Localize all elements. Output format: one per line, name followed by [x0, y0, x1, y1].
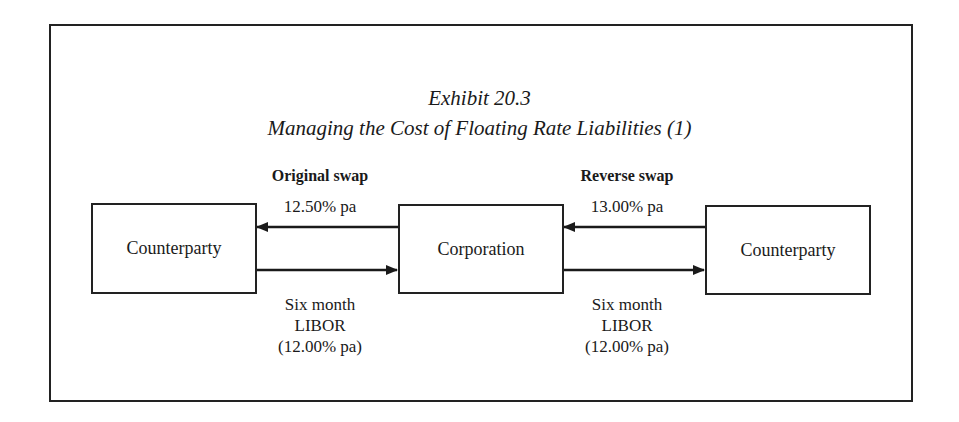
node-label: Counterparty — [127, 238, 222, 259]
reverse-swap-heading: Reverse swap — [557, 165, 697, 186]
floating-line: Six month — [557, 294, 697, 315]
node-right-counterparty: Counterparty — [705, 205, 871, 295]
original-swap-fixed-rate: 12.50% pa — [250, 196, 390, 217]
floating-line: Six month — [250, 294, 390, 315]
original-swap-floating-rate: Six month LIBOR (12.00% pa) — [250, 294, 390, 357]
original-swap-heading: Original swap — [250, 165, 390, 186]
node-corporation: Corporation — [398, 204, 564, 294]
node-label: Corporation — [438, 239, 525, 260]
node-label: Counterparty — [741, 240, 836, 261]
floating-line: LIBOR — [557, 315, 697, 336]
reverse-swap-floating-rate: Six month LIBOR (12.00% pa) — [557, 294, 697, 357]
floating-line: (12.00% pa) — [250, 336, 390, 357]
floating-line: LIBOR — [250, 315, 390, 336]
floating-line: (12.00% pa) — [557, 336, 697, 357]
reverse-swap-fixed-rate: 13.00% pa — [557, 196, 697, 217]
node-left-counterparty: Counterparty — [91, 203, 257, 294]
